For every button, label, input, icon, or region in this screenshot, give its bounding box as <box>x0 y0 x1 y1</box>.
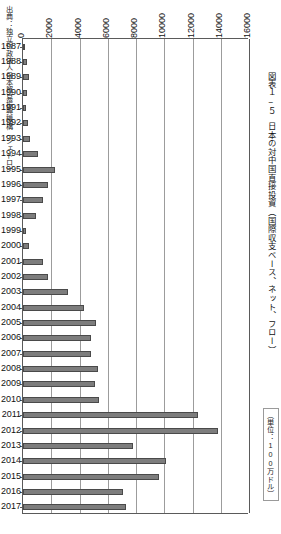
table-row <box>23 484 248 499</box>
bar <box>23 120 28 126</box>
table-row <box>23 131 248 146</box>
bar <box>23 504 126 510</box>
figure-title-text: 日本の対中国直接投資（国際収支ベース、ネット、フロー） <box>266 122 276 354</box>
bar <box>23 74 29 80</box>
table-row <box>23 54 248 69</box>
table-row <box>23 408 248 423</box>
x-tick-label: 10000 <box>157 13 167 38</box>
figure-title: 図表１−５日本の対中国直接投資（国際収支ベース、ネット、フロー） <box>262 72 280 354</box>
plot-area <box>22 38 248 514</box>
table-row <box>23 423 248 438</box>
bar <box>23 412 198 418</box>
y-tick-label: 2004 <box>1 302 21 312</box>
y-tick-label: 2012 <box>1 425 21 435</box>
x-tick-label: 4000 <box>73 18 83 38</box>
y-tick-label: 2009 <box>1 378 21 388</box>
table-row <box>23 346 248 361</box>
table-row <box>23 392 248 407</box>
y-tick-label: 2003 <box>1 286 21 296</box>
bar <box>23 151 38 157</box>
bar <box>23 381 95 387</box>
y-tick-label: 1996 <box>1 179 21 189</box>
y-tick-label: 2010 <box>1 394 21 404</box>
table-row <box>23 438 248 453</box>
unit-note: （単位：100万ドル） <box>263 408 279 501</box>
table-row <box>23 208 248 223</box>
bar <box>23 366 98 372</box>
figure-number: 図表１−５ <box>266 72 276 115</box>
figure-root: 出典：独立行政法人日本貿易振興機構（ジェトロ） 図表１−５日本の対中国直接投資（… <box>0 0 281 534</box>
y-tick-label: 1991 <box>1 102 21 112</box>
y-tick-label: 2016 <box>1 486 21 496</box>
bar <box>23 59 27 65</box>
table-row <box>23 361 248 376</box>
x-tick-label: 12000 <box>186 13 196 38</box>
y-tick-label: 1995 <box>1 164 21 174</box>
x-tick-label: 16000 <box>242 13 252 38</box>
bar <box>23 90 27 96</box>
table-row <box>23 469 248 484</box>
bar <box>23 335 91 341</box>
y-tick-label: 2013 <box>1 440 21 450</box>
table-row <box>23 239 248 254</box>
table-row <box>23 254 248 269</box>
bar <box>23 274 48 280</box>
table-row <box>23 100 248 115</box>
y-tick-label: 1987 <box>1 41 21 51</box>
table-row <box>23 269 248 284</box>
y-tick-label: 2017 <box>1 501 21 511</box>
y-tick-label: 1998 <box>1 210 21 220</box>
table-row <box>23 70 248 85</box>
y-tick-label: 2014 <box>1 455 21 465</box>
y-tick-label: 1997 <box>1 194 21 204</box>
gridline <box>249 39 250 513</box>
table-row <box>23 500 248 515</box>
y-tick-label: 1993 <box>1 133 21 143</box>
table-row <box>23 177 248 192</box>
table-row <box>23 454 248 469</box>
bar <box>23 44 25 50</box>
table-row <box>23 162 248 177</box>
table-row <box>23 223 248 238</box>
bar <box>23 213 36 219</box>
y-tick-label: 1992 <box>1 117 21 127</box>
bar <box>23 351 91 357</box>
y-tick-label: 1999 <box>1 225 21 235</box>
bar <box>23 289 68 295</box>
x-tick-label: 6000 <box>101 18 111 38</box>
table-row <box>23 300 248 315</box>
bar <box>23 243 29 249</box>
table-row <box>23 146 248 161</box>
table-row <box>23 116 248 131</box>
y-tick-label: 2002 <box>1 271 21 281</box>
y-tick-label: 2005 <box>1 317 21 327</box>
y-tick-label: 2008 <box>1 363 21 373</box>
table-row <box>23 315 248 330</box>
bar-chart: 0200040006000800010000120001400016000 <box>22 8 248 522</box>
y-tick-label: 1989 <box>1 71 21 81</box>
bar <box>23 259 43 265</box>
y-tick-label: 1988 <box>1 56 21 66</box>
bar <box>23 228 26 234</box>
bar <box>23 136 30 142</box>
x-tick-label: 14000 <box>214 13 224 38</box>
x-tick-label: 2000 <box>44 18 54 38</box>
x-tick-label: 8000 <box>129 18 139 38</box>
bar <box>23 182 48 188</box>
y-tick-label: 2000 <box>1 240 21 250</box>
y-tick-label: 1990 <box>1 87 21 97</box>
bar <box>23 305 84 311</box>
table-row <box>23 377 248 392</box>
table-row <box>23 331 248 346</box>
table-row <box>23 193 248 208</box>
y-tick-label: 2006 <box>1 332 21 342</box>
y-tick-label: 2015 <box>1 471 21 481</box>
table-row <box>23 85 248 100</box>
bar <box>23 197 43 203</box>
bar <box>23 167 55 173</box>
bar <box>23 458 166 464</box>
bar-rows <box>23 39 248 513</box>
bar <box>23 489 123 495</box>
y-tick-label: 2007 <box>1 348 21 358</box>
bar <box>23 443 133 449</box>
